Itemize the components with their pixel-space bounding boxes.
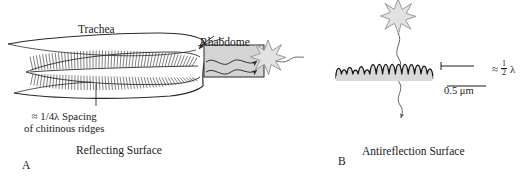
label-half-lambda: ≈ 1 2 λ [492,60,515,77]
antireflection-profile [336,64,433,81]
panel-label-a: A [22,159,30,172]
fraction-denominator: 2 [501,68,507,77]
caption-antireflection-surface: Antireflection Surface [362,145,465,158]
label-rhabdome: Rhabdome [200,36,250,49]
figure-reflection-antireflection: Trachea Rhabdome ≈ 1/4λ Spacing of chiti… [0,0,530,180]
fraction-numerator: 1 [501,60,507,68]
half-lambda-measure [441,62,474,70]
star-icon-source [381,0,417,34]
rhabdome-box [204,45,264,77]
chitinous-ridge-stack [26,51,200,91]
label-trachea: Trachea [78,23,115,36]
caption-reflecting-surface: Reflecting Surface [76,144,162,157]
star-icon-reflected [251,40,287,75]
approx-sign: ≈ [492,63,498,75]
quarter-spacing-line2: of chitinous ridges [24,122,104,134]
label-quarter-lambda-spacing: ≈ 1/4λ Spacing of chitinous ridges [24,110,104,134]
half-fraction: 1 2 [501,60,507,77]
label-scale-bar: 0.5 μm [444,85,474,97]
quarter-spacing-line1: ≈ 1/4λ Spacing [32,110,97,122]
panel-label-b: B [338,155,346,168]
lambda-symbol: λ [510,63,515,75]
trachea-outline [8,33,205,98]
